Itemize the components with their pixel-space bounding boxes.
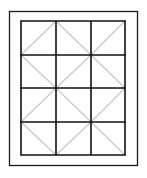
diagonal-line [56,88,91,122]
diagonal-line [21,21,56,55]
diagonal-line [91,55,125,88]
grid-diagram [0,0,147,178]
diagonal-line [91,21,125,55]
diagonal-line [21,55,56,88]
diagonal-line [56,122,91,155]
diagonal-line [91,122,125,155]
diagonal-line [56,55,91,88]
diagonal-line [56,21,91,55]
diagonal-line [21,88,56,122]
diagonal-line [91,88,125,122]
diagonal-line [21,122,56,155]
